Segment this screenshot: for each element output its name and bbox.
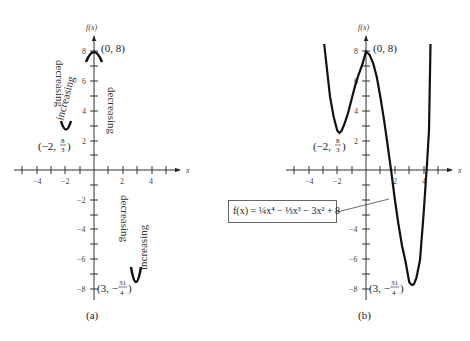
svg-text:4: 4 (120, 289, 124, 297)
function-formula: f(x) = ¼x⁴ − ⅓x³ − 3x² + 8 (233, 203, 340, 219)
y-tick-label: −8 (77, 285, 86, 294)
svg-text:): ) (400, 282, 404, 295)
svg-text:8: 8 (336, 137, 340, 145)
y-tick-label: 4 (354, 107, 358, 116)
svg-text:31: 31 (391, 279, 399, 287)
panel-caption: (b) (358, 309, 371, 322)
y-tick-label: −4 (349, 225, 358, 234)
panel-b: x f(x) −4 −2 2 4 8 6 4 2 −4 −6 −8 (286, 23, 462, 322)
y-tick-label: −2 (77, 196, 86, 205)
svg-text:4: 4 (392, 289, 396, 297)
leader-line (337, 199, 389, 212)
svg-text:(−2,: (−2, (313, 140, 331, 153)
y-tick-label: 2 (354, 137, 358, 146)
y-tick-label: 6 (82, 77, 86, 86)
point-label: (−2, 8 3 ) (313, 137, 346, 154)
y-axis-label: f(x) (358, 23, 369, 32)
panel-a: x f(x) −4 −2 2 4 8 6 4 2 −2 −4 (14, 23, 190, 322)
point-label: (0, 8) (373, 42, 397, 55)
svg-text:8: 8 (61, 137, 65, 145)
y-tick-label: −6 (77, 255, 86, 264)
panel-caption: (a) (86, 309, 99, 322)
local-min-arc (61, 121, 71, 130)
svg-text:(3, −: (3, − (97, 282, 118, 295)
point-label: (3, − 31 4 ) (369, 279, 404, 297)
svg-text:): ) (342, 140, 346, 153)
y-tick-label: −8 (349, 285, 358, 294)
x-tick-label: −2 (333, 177, 342, 186)
y-tick-label: 4 (82, 107, 86, 116)
y-axis-label: f(x) (86, 23, 97, 32)
y-tick-label: 8 (354, 47, 358, 56)
svg-text:): ) (128, 282, 132, 295)
svg-text:): ) (67, 140, 71, 153)
svg-text:3: 3 (61, 146, 65, 154)
x-tick-label: −4 (33, 177, 42, 186)
y-tick-label: −4 (77, 225, 86, 234)
x-axis-label: x (185, 166, 190, 175)
y-tick-label: −6 (349, 255, 358, 264)
svg-text:(−2,: (−2, (38, 140, 56, 153)
x-axis-label: x (457, 166, 462, 175)
x-tick-label: 2 (120, 177, 124, 186)
y-tick-label: 2 (82, 137, 86, 146)
x-tick-label: 4 (149, 177, 153, 186)
svg-text:3: 3 (336, 146, 340, 154)
function-curve (324, 44, 430, 285)
x-tick-label: −4 (305, 177, 314, 186)
point-label: (3, − 31 4 ) (97, 279, 132, 297)
figure: x f(x) −4 −2 2 4 8 6 4 2 −2 −4 (0, 0, 470, 341)
interval-label-decreasing: decreasing (106, 87, 118, 135)
svg-text:(3, −: (3, − (369, 282, 390, 295)
interval-label-decreasing: decreasing (119, 195, 131, 243)
y-tick-label: 8 (82, 47, 86, 56)
svg-text:31: 31 (119, 279, 127, 287)
point-label: (−2, 8 3 ) (38, 137, 71, 154)
point-label: (0, 8) (101, 42, 125, 55)
interval-label-increasing: increasing (137, 224, 149, 270)
x-tick-label: −2 (61, 177, 70, 186)
